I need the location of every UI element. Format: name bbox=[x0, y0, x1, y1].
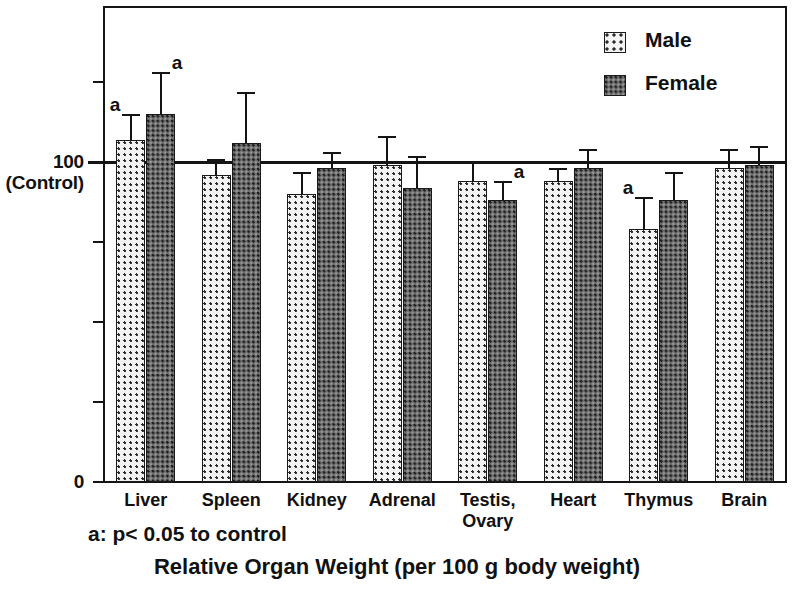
control-reference-line bbox=[103, 161, 787, 164]
error-bar-stem-female-7 bbox=[758, 146, 760, 165]
legend-label-male: Male bbox=[645, 28, 692, 52]
legend-label-female: Female bbox=[645, 71, 717, 95]
significance-marker-male-0: a bbox=[110, 95, 121, 114]
y-axis-label-control: 100 (Control) bbox=[0, 151, 84, 193]
error-bar-cap-female-7 bbox=[750, 146, 768, 148]
bar-female-1 bbox=[232, 143, 261, 482]
significance-marker-male-6: a bbox=[623, 178, 634, 197]
bar-female-6 bbox=[659, 200, 688, 482]
error-bar-cap-female-2 bbox=[323, 152, 341, 154]
bar-male-5 bbox=[544, 181, 573, 482]
bar-male-0 bbox=[116, 140, 145, 482]
error-bar-stem-male-2 bbox=[301, 172, 303, 194]
significance-marker-female-4: a bbox=[514, 162, 525, 181]
legend-swatch-male-icon bbox=[604, 32, 626, 53]
legend-item-female: Female bbox=[600, 69, 760, 112]
error-bar-cap-male-4 bbox=[464, 162, 482, 164]
error-bar-cap-male-6 bbox=[635, 197, 653, 199]
error-bar-cap-male-2 bbox=[293, 172, 311, 174]
error-bar-stem-male-0 bbox=[130, 114, 132, 140]
legend-item-male: Male bbox=[600, 26, 760, 69]
error-bar-stem-male-4 bbox=[472, 162, 474, 181]
category-label-line1-7: Brain bbox=[694, 490, 794, 511]
error-bar-stem-male-7 bbox=[728, 149, 730, 168]
error-bar-cap-female-1 bbox=[237, 92, 255, 94]
bar-male-6 bbox=[629, 229, 658, 482]
chart-axis-title: Relative Organ Weight (per 100 g body we… bbox=[0, 554, 794, 580]
error-bar-stem-female-5 bbox=[587, 149, 589, 168]
error-bar-cap-male-3 bbox=[378, 136, 396, 138]
y-axis-tick-125 bbox=[93, 81, 104, 83]
y-axis-tick-50 bbox=[93, 321, 104, 323]
bar-female-0 bbox=[146, 114, 175, 482]
bar-male-1 bbox=[202, 175, 231, 482]
bar-female-2 bbox=[317, 168, 346, 482]
y-axis-tick-0 bbox=[93, 481, 104, 483]
error-bar-cap-female-0 bbox=[152, 72, 170, 74]
category-label-line2-4: Ovary bbox=[437, 511, 539, 532]
bar-female-7 bbox=[745, 165, 774, 482]
error-bar-cap-male-1 bbox=[207, 159, 225, 161]
significance-marker-female-0: a bbox=[172, 53, 183, 72]
error-bar-cap-female-5 bbox=[579, 149, 597, 151]
error-bar-cap-male-5 bbox=[549, 168, 567, 170]
error-bar-stem-male-6 bbox=[643, 197, 645, 229]
error-bar-stem-male-1 bbox=[215, 159, 217, 175]
error-bar-cap-female-6 bbox=[665, 172, 683, 174]
y-axis-label-zero: 0 bbox=[0, 471, 84, 492]
legend-swatch-female-icon bbox=[604, 75, 626, 96]
y-axis-tick-25 bbox=[93, 401, 104, 403]
category-label-7: Brain bbox=[694, 490, 794, 511]
error-bar-stem-male-3 bbox=[386, 136, 388, 165]
y-axis-label-100: 100 bbox=[0, 151, 84, 172]
chart-figure: 100 (Control) 0 aaaa LiverSpleenKidneyAd… bbox=[0, 0, 794, 589]
bar-female-5 bbox=[574, 168, 603, 482]
bar-male-3 bbox=[373, 165, 402, 482]
error-bar-cap-female-3 bbox=[408, 156, 426, 158]
bar-male-7 bbox=[715, 168, 744, 482]
bar-male-2 bbox=[287, 194, 316, 482]
error-bar-cap-male-7 bbox=[720, 149, 738, 151]
error-bar-stem-female-3 bbox=[416, 156, 418, 188]
error-bar-stem-female-1 bbox=[245, 92, 247, 143]
significance-footnote: a: p< 0.05 to control bbox=[88, 522, 287, 546]
bar-male-4 bbox=[458, 181, 487, 482]
error-bar-stem-female-4 bbox=[502, 181, 504, 200]
bar-female-3 bbox=[403, 188, 432, 482]
error-bar-stem-female-2 bbox=[331, 152, 333, 168]
error-bar-cap-male-0 bbox=[122, 114, 140, 116]
error-bar-stem-female-0 bbox=[160, 72, 162, 114]
error-bar-cap-female-4 bbox=[494, 181, 512, 183]
y-axis-label-control-sub: (Control) bbox=[0, 172, 84, 193]
error-bar-stem-female-6 bbox=[673, 172, 675, 201]
legend: Male Female bbox=[600, 26, 760, 112]
bar-female-4 bbox=[488, 200, 517, 482]
y-axis-tick-100 bbox=[88, 161, 104, 164]
y-axis-tick-75 bbox=[93, 241, 104, 243]
